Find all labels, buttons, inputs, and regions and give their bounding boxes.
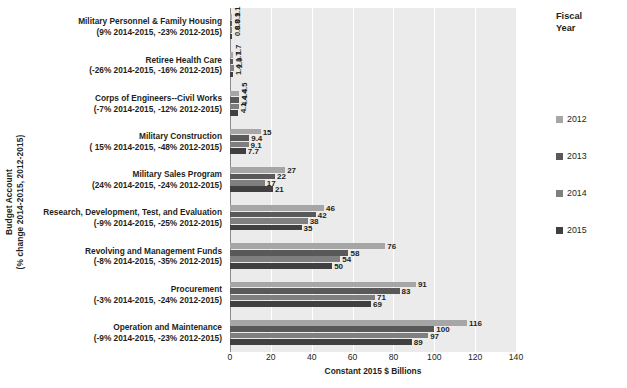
bar-value-label: 42	[318, 210, 327, 219]
x-tick-label: 0	[228, 352, 233, 362]
bar-value-label: 4.1	[239, 103, 248, 113]
category-name: Procurement	[171, 284, 222, 295]
category-name: Retiree Health Care	[145, 55, 222, 66]
category-name: Corps of Engineers--Civil Works	[95, 93, 222, 104]
bar-value-label: 58	[350, 248, 359, 257]
bar-2014: 17	[230, 180, 265, 186]
bar-2012: 4.5	[230, 91, 239, 97]
legend-label: 2015	[567, 225, 587, 235]
bar-value-label: 83	[402, 286, 411, 295]
bar-group: 159.49.17.7	[230, 123, 516, 161]
bar-value-label: 21	[275, 185, 284, 194]
category-name: Operation and Maintenance	[113, 322, 222, 333]
bar-2012: 116	[230, 320, 467, 326]
bar-2015: 4.1	[230, 110, 238, 116]
category-name: Research, Development, Test, and Evaluat…	[43, 207, 222, 218]
x-tick-label: 100	[427, 352, 441, 362]
category-change: (-7% 2014-2015, -12% 2012-2015)	[94, 104, 222, 115]
bar-value-label: 35	[304, 223, 313, 232]
x-tick-label: 120	[468, 352, 482, 362]
bar-2015: 7.7	[230, 148, 246, 154]
category-name: Revolving and Management Funds	[85, 246, 222, 257]
category-label: Procurement(-3% 2014-2015, -24% 2012-201…	[26, 276, 226, 314]
bar-2012: 76	[230, 243, 385, 249]
category-name: Military Construction	[139, 131, 222, 142]
bar-2014: 54	[230, 256, 340, 262]
bar-2013: 100	[230, 326, 434, 332]
bar-2014: 0.8	[230, 27, 232, 33]
bar-value-label: 22	[277, 172, 286, 181]
bar-2013: 42	[230, 212, 316, 218]
category-label: Revolving and Management Funds(-8% 2014-…	[26, 237, 226, 275]
bar-2015: 89	[230, 339, 412, 345]
category-change: (-9% 2014-2015, -25% 2012-2015)	[94, 218, 222, 229]
category-change: (24% 2014-2015, -24% 2012-2015)	[92, 180, 222, 191]
x-axis-ticks: 020406080100120140	[230, 352, 516, 366]
legend-label: 2012	[567, 114, 587, 124]
bar-2015: 0.8	[230, 34, 232, 40]
legend-swatch-icon	[556, 227, 563, 234]
legend-label: 2014	[567, 188, 587, 198]
legend-swatch-icon	[556, 153, 563, 160]
bar-2015: 21	[230, 186, 273, 192]
category-label: Corps of Engineers--Civil Works(-7% 2014…	[26, 84, 226, 122]
bar-group: 91837169	[230, 276, 516, 314]
legend-title-line1: Fiscal	[556, 10, 622, 22]
bar-2013: 1.7	[230, 59, 233, 65]
bar-2015: 1.4	[230, 72, 233, 78]
category-change: (-9% 2014-2015, -23% 2012-2015)	[94, 333, 222, 344]
x-tick-label: 140	[509, 352, 523, 362]
bar-2014: 97	[230, 333, 428, 339]
legend: Fiscal Year 2012201320142015	[556, 10, 622, 249]
bar-value-label: 46	[326, 204, 335, 213]
budget-account-bar-chart: Budget Account (% change 2014-2015, 2012…	[0, 0, 627, 388]
category-label: Military Personnel & Family Housing(9% 2…	[26, 8, 226, 46]
bar-2013: 9.4	[230, 135, 249, 141]
category-change: (-8% 2014-2015, -35% 2012-2015)	[94, 256, 222, 267]
bar-value-label: 54	[342, 255, 351, 264]
bar-group: 27221721	[230, 161, 516, 199]
bar-value-label: 76	[387, 242, 396, 251]
bar-value-label: 91	[418, 280, 427, 289]
bar-value-label: 15	[263, 127, 272, 136]
plot-area: 1.10.90.80.81.71.72.01.44.54.44.44.1159.…	[230, 8, 516, 352]
x-tick-label: 40	[307, 352, 317, 362]
bar-group: 46423835	[230, 199, 516, 237]
bar-2014: 38	[230, 218, 308, 224]
bar-value-label: 116	[469, 318, 482, 327]
bar-2015: 35	[230, 225, 302, 231]
legend-swatch-icon	[556, 190, 563, 197]
category-label: Military Construction( 15% 2014-2015, -4…	[26, 123, 226, 161]
bar-2013: 83	[230, 288, 400, 294]
legend-label: 2013	[567, 151, 587, 161]
category-change: ( 15% 2014-2015, -48% 2012-2015)	[90, 142, 222, 153]
category-label: Retiree Health Care(-26% 2014-2015, -16%…	[26, 46, 226, 84]
category-name: Military Sales Program	[133, 169, 222, 180]
bar-2015: 69	[230, 301, 371, 307]
bar-group: 1.10.90.80.8	[230, 8, 516, 46]
legend-title-line2: Year	[556, 22, 622, 34]
legend-item-2014[interactable]: 2014	[556, 175, 622, 212]
bar-2012: 91	[230, 282, 416, 288]
x-tick-label: 20	[266, 352, 276, 362]
category-label-column: Military Personnel & Family Housing(9% 2…	[26, 8, 226, 352]
y-axis-title-line1: Budget Account	[4, 134, 15, 269]
bar-value-label: 50	[334, 261, 343, 270]
y-axis-title-line2: (% change 2014-2015, 2012-2015)	[15, 134, 26, 269]
bar-group: 4.54.44.44.1	[230, 84, 516, 122]
gridline	[516, 8, 517, 352]
legend-item-2015[interactable]: 2015	[556, 212, 622, 249]
bar-2014: 71	[230, 295, 375, 301]
bar-group: 1.71.72.01.4	[230, 46, 516, 84]
bar-2012: 46	[230, 205, 324, 211]
category-name: Military Personnel & Family Housing	[78, 16, 222, 27]
bar-value-label: 0.8	[232, 26, 241, 36]
category-change: (-3% 2014-2015, -24% 2012-2015)	[94, 295, 222, 306]
x-tick-label: 80	[389, 352, 399, 362]
bar-2013: 58	[230, 250, 348, 256]
legend-item-2013[interactable]: 2013	[556, 138, 622, 175]
bar-2014: 9.1	[230, 142, 249, 148]
category-label: Military Sales Program(24% 2014-2015, -2…	[26, 161, 226, 199]
legend-title: Fiscal Year	[556, 10, 622, 35]
legend-item-2012[interactable]: 2012	[556, 101, 622, 138]
